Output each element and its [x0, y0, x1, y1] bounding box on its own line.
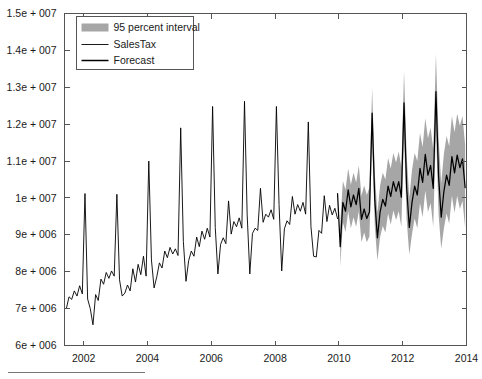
x-tick-label: 2004 — [136, 352, 160, 364]
x-tick-label: 2008 — [263, 352, 287, 364]
chart-legend: 95 percent intervalSalesTaxForecast — [77, 17, 200, 70]
y-tick-label: 1e + 007 — [15, 192, 56, 204]
legend-label: Forecast — [114, 54, 155, 66]
y-tick-label: 1.3e + 007 — [7, 81, 57, 93]
chart-canvas: 6e + 0067e + 0068e + 0069e + 0061e + 007… — [0, 0, 482, 379]
y-tick-label: 1.2e + 007 — [7, 118, 57, 130]
y-tick-label: 9e + 006 — [15, 228, 56, 240]
y-tick-label: 8e + 006 — [15, 265, 56, 277]
x-tick-label: 2002 — [72, 352, 96, 364]
legend-swatch-icon — [82, 24, 109, 32]
y-tick-label: 1.4e + 007 — [7, 44, 57, 56]
salestax-forecast-figure: 6e + 0067e + 0068e + 0069e + 0061e + 007… — [0, 0, 482, 379]
y-tick-label: 7e + 006 — [15, 302, 56, 314]
legend-label: 95 percent interval — [114, 21, 200, 33]
legend-label: SalesTax — [114, 38, 157, 50]
figure-background — [0, 0, 482, 379]
x-tick-label: 2010 — [327, 352, 351, 364]
x-tick-label: 2006 — [200, 352, 224, 364]
x-tick-label: 2012 — [391, 352, 415, 364]
y-tick-label: 6e + 006 — [15, 339, 56, 351]
y-tick-label: 1.1e + 007 — [7, 155, 57, 167]
x-tick-label: 2014 — [455, 352, 479, 364]
y-tick-label: 1.5e + 007 — [7, 7, 57, 19]
